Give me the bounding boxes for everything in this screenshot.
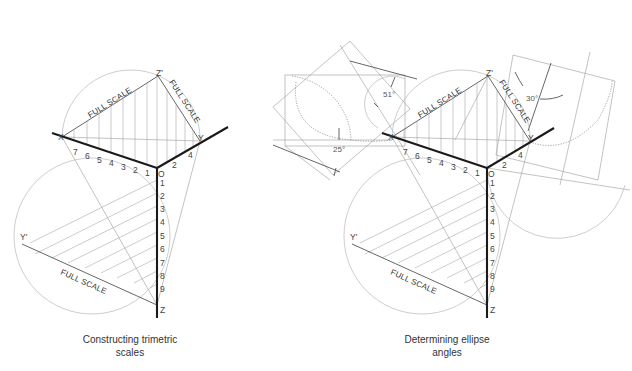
svg-text:4: 4 xyxy=(109,158,114,168)
label-y-prime: Y' xyxy=(20,232,28,242)
arrow-51 xyxy=(391,77,395,87)
label-y-prime: Y' xyxy=(350,232,358,242)
lower-circle xyxy=(14,158,170,314)
ellipse-arc-left xyxy=(292,76,392,141)
svg-text:3: 3 xyxy=(160,204,165,214)
svg-text:8: 8 xyxy=(160,271,165,281)
caption-left: Constructing trimetric scales xyxy=(60,333,200,359)
svg-text:3: 3 xyxy=(451,162,456,172)
full-scale-label: FULL SCALE xyxy=(416,86,463,120)
svg-text:5: 5 xyxy=(160,231,165,241)
caption-left-line2: scales xyxy=(60,346,200,359)
rotated-box-right xyxy=(496,55,615,180)
angle-30-label: 30° xyxy=(526,94,538,103)
svg-text:7: 7 xyxy=(403,147,408,157)
caption-left-line1: Constructing trimetric xyxy=(60,333,200,346)
svg-text:7: 7 xyxy=(160,258,165,268)
y-axis xyxy=(157,127,228,168)
svg-text:1: 1 xyxy=(160,178,165,188)
z-axis-ticks: 1 2 3 4 5 6 7 8 9 xyxy=(490,178,495,294)
arrow-30 xyxy=(515,72,523,86)
svg-text:6: 6 xyxy=(490,244,495,254)
ellipse-arc-left-2 xyxy=(295,82,351,140)
angle-25-label: 25° xyxy=(333,145,345,154)
full-scale-label: FULL SCALE xyxy=(86,86,133,120)
svg-text:3: 3 xyxy=(121,162,126,172)
label-z: Z xyxy=(490,305,495,315)
label-y: Y xyxy=(198,133,204,143)
svg-text:4: 4 xyxy=(439,158,444,168)
svg-text:2: 2 xyxy=(172,160,177,170)
svg-text:2: 2 xyxy=(490,191,495,201)
svg-text:2: 2 xyxy=(502,160,507,170)
upper-semicircle xyxy=(392,70,530,141)
svg-text:1: 1 xyxy=(475,168,480,178)
caption-right: Determining ellipse angles xyxy=(377,333,517,359)
svg-text:4: 4 xyxy=(490,217,495,227)
right-figure: 51° 25° 30° xyxy=(273,41,630,318)
angle-51-label: 51° xyxy=(383,90,395,99)
label-y: Y xyxy=(528,133,534,143)
svg-text:5: 5 xyxy=(97,155,102,165)
label-z: Z xyxy=(160,305,165,315)
svg-text:9: 9 xyxy=(160,284,165,294)
svg-text:3: 3 xyxy=(490,204,495,214)
z-axis-ticks: 1 2 3 4 5 6 7 8 9 xyxy=(160,178,165,294)
svg-text:9: 9 xyxy=(490,284,495,294)
svg-text:5: 5 xyxy=(427,155,432,165)
svg-text:4: 4 xyxy=(518,150,523,160)
label-x: X xyxy=(58,132,64,142)
label-z-prime: Z' xyxy=(486,68,493,78)
caption-right-line1: Determining ellipse xyxy=(377,333,517,346)
upper-semicircle xyxy=(62,70,200,141)
label-x: X xyxy=(388,132,394,142)
left-figure: X Z' Y O Y' Z FULL SCALE FULL SCALE FULL… xyxy=(14,68,228,318)
svg-text:6: 6 xyxy=(415,151,420,161)
svg-text:7: 7 xyxy=(73,147,78,157)
svg-text:2: 2 xyxy=(160,191,165,201)
svg-text:4: 4 xyxy=(188,150,193,160)
svg-text:1: 1 xyxy=(145,168,150,178)
trimetric-drawing: X Z' Y O Y' Z FULL SCALE FULL SCALE FULL… xyxy=(0,0,632,371)
svg-text:2: 2 xyxy=(463,165,468,175)
svg-text:8: 8 xyxy=(490,271,495,281)
svg-text:7: 7 xyxy=(490,258,495,268)
svg-text:6: 6 xyxy=(85,151,90,161)
label-z-prime: Z' xyxy=(156,68,163,78)
svg-text:6: 6 xyxy=(160,244,165,254)
caption-right-line2: angles xyxy=(377,346,517,359)
svg-text:5: 5 xyxy=(490,231,495,241)
svg-text:4: 4 xyxy=(160,217,165,227)
lower-circle xyxy=(344,158,500,314)
svg-text:2: 2 xyxy=(133,165,138,175)
svg-text:1: 1 xyxy=(490,178,495,188)
